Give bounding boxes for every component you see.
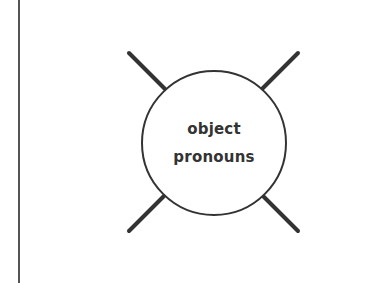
- center-circle: [142, 71, 286, 215]
- spider-diagram: [0, 0, 392, 283]
- spoke-bottom-right[interactable]: [262, 195, 298, 231]
- center-label-line-2: pronouns: [143, 148, 285, 166]
- spoke-top-right[interactable]: [262, 53, 298, 89]
- spoke-top-left[interactable]: [129, 53, 165, 89]
- center-label-line-1: object: [143, 120, 285, 138]
- spoke-bottom-left[interactable]: [129, 195, 165, 231]
